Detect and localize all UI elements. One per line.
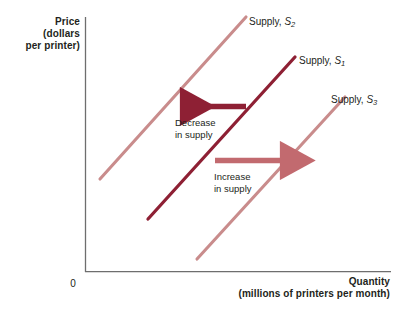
curve-label-s1: Supply, S1: [299, 55, 345, 67]
supply-shift-diagram: Price(dollarsper printer) Quantity(milli…: [0, 0, 409, 314]
increase-caption-line1: Increase: [214, 171, 250, 182]
increase-in-supply-caption: Increasein supply: [214, 171, 252, 196]
curve-label-s1-subscript: 1: [341, 59, 345, 68]
curve-label-s3: Supply, S3: [331, 94, 377, 106]
x-axis-units: (millions of printers per month): [238, 288, 390, 299]
curve-label-s3-subscript: 3: [373, 98, 377, 107]
decrease-in-supply-caption: Decreasein supply: [175, 117, 216, 142]
increase-caption-line2: in supply: [214, 183, 252, 194]
curve-label-s1-prefix: Supply,: [299, 55, 334, 66]
origin-label: 0: [66, 278, 80, 290]
y-axis-title-main: Price: [55, 16, 80, 27]
x-axis-title-main: Quantity: [349, 276, 390, 287]
x-axis-title: Quantity(millions of printers per month): [150, 276, 390, 300]
curve-label-s2-subscript: 2: [291, 20, 295, 29]
decrease-caption-line2: in supply: [175, 129, 213, 140]
curve-label-s2: Supply, S2: [249, 16, 295, 28]
curve-label-s2-prefix: Supply,: [249, 16, 284, 27]
y-axis-units-line2: per printer): [25, 40, 80, 51]
curve-label-s3-prefix: Supply,: [331, 94, 366, 105]
y-axis-title: Price(dollarsper printer): [0, 16, 80, 51]
y-axis-units-line1: (dollars: [43, 28, 80, 39]
decrease-caption-line1: Decrease: [175, 117, 216, 128]
supply-curve-s2: [100, 17, 246, 179]
